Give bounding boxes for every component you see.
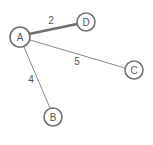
edge-weight-a-b: 4 bbox=[28, 74, 34, 85]
weighted-graph: 2 5 4 A D C B bbox=[0, 0, 153, 145]
node-label-d: D bbox=[82, 17, 89, 28]
node-c: C bbox=[125, 61, 143, 79]
node-b: B bbox=[44, 108, 62, 126]
edge-weight-a-c: 5 bbox=[74, 56, 80, 67]
node-a: A bbox=[10, 27, 30, 47]
node-label-b: B bbox=[50, 112, 57, 123]
edge-a-d bbox=[29, 24, 77, 34]
nodes-layer: A D C B bbox=[10, 13, 143, 126]
node-label-c: C bbox=[130, 65, 137, 76]
node-d: D bbox=[77, 13, 95, 31]
node-label-a: A bbox=[17, 32, 24, 43]
edge-weight-a-d: 2 bbox=[48, 15, 54, 26]
